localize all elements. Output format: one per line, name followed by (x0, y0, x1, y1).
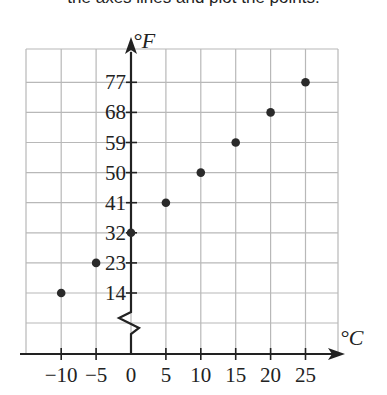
data-point (197, 168, 206, 177)
data-point (92, 259, 101, 268)
grid-lines (26, 49, 338, 354)
y-tick-label: 59 (105, 131, 126, 155)
x-tick-label: 10 (190, 363, 211, 387)
data-point (127, 229, 136, 238)
x-tick-label: −10 (45, 363, 78, 387)
y-tick-label: 68 (105, 100, 126, 124)
y-tick-label: 77 (105, 70, 126, 94)
y-tick-label: 41 (105, 191, 126, 215)
x-tick-label: 15 (225, 363, 246, 387)
data-point (231, 138, 240, 147)
y-tick-label: 32 (105, 221, 126, 245)
y-axis-label: °F (133, 28, 156, 53)
data-point (57, 289, 66, 298)
data-point (162, 198, 171, 207)
x-tick-label: 20 (260, 363, 281, 387)
scatter-chart: −10−505101520251423324150596877°F°C (0, 0, 387, 395)
y-tick-label: 23 (105, 251, 126, 275)
data-points (57, 78, 310, 297)
x-axis-label: °C (340, 325, 364, 350)
x-tick-label: 5 (161, 363, 172, 387)
axes (20, 37, 345, 360)
tick-marks (61, 82, 305, 360)
x-tick-label: 25 (295, 363, 316, 387)
data-point (266, 108, 275, 117)
x-tick-label: 0 (126, 363, 137, 387)
data-point (301, 78, 310, 87)
y-tick-label: 50 (105, 161, 126, 185)
x-tick-label: −5 (85, 363, 107, 387)
y-tick-label: 14 (105, 281, 127, 305)
